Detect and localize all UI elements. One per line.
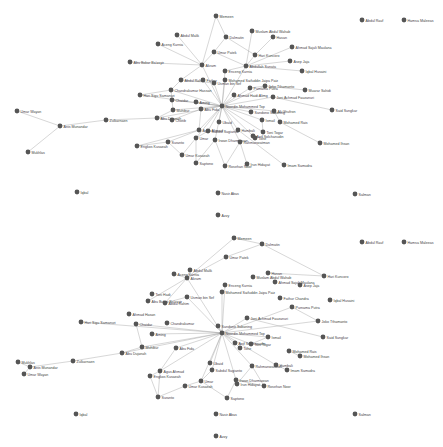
node-dot[interactable] <box>245 162 250 167</box>
node-dot[interactable] <box>316 319 321 324</box>
graph-node-hari-sigu-samanuri[interactable]: Hari Sigu Samanuri <box>138 93 175 99</box>
graph-node-aming[interactable]: Aming <box>150 332 166 338</box>
node-dot[interactable] <box>120 351 125 356</box>
graph-node-imam-samudra[interactable]: Imam Samudra <box>282 163 312 169</box>
node-dot[interactable] <box>220 290 225 295</box>
node-dot[interactable] <box>402 240 407 245</box>
node-dot[interactable] <box>250 29 255 34</box>
node-dot[interactable] <box>234 378 239 383</box>
node-dot[interactable] <box>266 335 271 340</box>
node-dot[interactable] <box>261 130 266 135</box>
graph-node-iqbal-husaini[interactable]: Iqbal Husaini <box>300 69 327 75</box>
graph-node-asep-jaja[interactable]: Asep Jaja <box>298 283 320 289</box>
graph-node-irun-hidayat[interactable]: Irun Hidayat <box>235 382 260 388</box>
graph-node-ahmad-haidi-alimg[interactable]: Ahmad Haidi Alimg <box>232 93 268 99</box>
node-dot[interactable] <box>171 108 176 113</box>
graph-node-mohamed-ihsan[interactable]: Mohamed Ihsan <box>318 141 350 147</box>
node-dot[interactable] <box>104 118 109 123</box>
node-dot[interactable] <box>208 361 213 366</box>
graph-node-dulmatin[interactable]: Dulmatin <box>260 242 280 248</box>
graph-node-memeen[interactable]: Memeen <box>232 236 252 242</box>
node-dot[interactable] <box>262 384 267 389</box>
node-dot[interactable] <box>216 324 221 329</box>
node-dot[interactable] <box>26 150 31 155</box>
graph-node-zulkarnaen[interactable]: Zulkarnaen <box>71 359 95 365</box>
node-dot[interactable] <box>155 116 160 121</box>
node-dot[interactable] <box>223 283 228 288</box>
graph-node-ismail[interactable]: Ismail <box>266 335 281 341</box>
node-dot[interactable] <box>260 242 265 247</box>
node-dot[interactable] <box>360 240 365 245</box>
node-dot[interactable] <box>140 345 145 350</box>
node-dot[interactable] <box>298 354 303 359</box>
node-dot[interactable] <box>201 78 206 83</box>
graph-node-engkos-kusaeah[interactable]: Engkos Kusaeah <box>135 144 168 150</box>
graph-node-suranto[interactable]: Suranto <box>166 140 184 146</box>
node-dot[interactable] <box>170 98 175 103</box>
node-dot[interactable] <box>220 104 225 109</box>
graph-node-mohamed-rais[interactable]: Mohamed Rais <box>278 120 308 126</box>
node-dot[interactable] <box>251 275 256 280</box>
graph-node-said-sungkar[interactable]: Said Sungkar <box>330 108 358 114</box>
node-dot[interactable] <box>156 395 161 400</box>
node-dot[interactable] <box>138 93 143 98</box>
graph-node-engkos-kusaeah[interactable]: Engkos Kusaeah <box>148 374 181 380</box>
graph-node-umar[interactable]: Umar <box>199 379 214 385</box>
node-dot[interactable] <box>263 84 268 89</box>
node-dot[interactable] <box>200 63 205 68</box>
node-dot[interactable] <box>213 138 218 143</box>
node-dot[interactable] <box>150 292 155 297</box>
node-dot[interactable] <box>321 335 326 340</box>
graph-node-akram[interactable]: Akram <box>185 276 201 282</box>
graph-node-ahmad-sajuli-maulana[interactable]: Ahmad Sajuli Maulana <box>290 45 332 51</box>
graph-node-joni-achmad-fauzanuri[interactable]: Joni Achmad Fauzanuri <box>245 316 289 322</box>
graph-node-azzy[interactable]: Azzy <box>214 434 228 440</box>
node-dot[interactable] <box>249 342 254 347</box>
graph-node-saptono[interactable]: Saptono <box>194 161 213 167</box>
node-dot[interactable] <box>214 412 219 417</box>
node-dot[interactable] <box>28 365 33 370</box>
node-dot[interactable] <box>210 368 215 373</box>
node-dot[interactable] <box>253 136 258 141</box>
graph-node-imam-samudra[interactable]: Imam Samudra <box>285 368 315 374</box>
graph-node-memeen[interactable]: Memeen <box>214 14 234 20</box>
graph-node-salman[interactable]: Salman <box>353 412 371 418</box>
graph-node-mohamed-saifuddin-jaipa-paiz[interactable]: Mohamed Saifuddin Jaipa Paiz <box>220 290 276 296</box>
node-dot[interactable] <box>238 140 243 145</box>
node-dot[interactable] <box>250 364 255 369</box>
node-dot[interactable] <box>272 109 277 114</box>
graph-node-umar-wayan[interactable]: Umar Wayan <box>22 372 49 378</box>
node-dot[interactable] <box>266 271 271 276</box>
graph-node-joni-achmad-fauzanuri[interactable]: Joni Achmad Fauzanuri <box>271 95 315 101</box>
graph-node-mukhlas[interactable]: Mukhlas <box>16 360 35 366</box>
node-dot[interactable] <box>185 295 190 300</box>
node-dot[interactable] <box>75 190 80 195</box>
node-dot[interactable] <box>232 93 237 98</box>
node-dot[interactable] <box>223 69 228 74</box>
graph-node-ubaid[interactable]: Ubaid <box>217 120 232 126</box>
node-dot[interactable] <box>285 368 290 373</box>
graph-node-aming[interactable]: Aming <box>194 100 210 106</box>
graph-node-abdul-rauf[interactable]: Abdul Rauf <box>360 240 384 246</box>
graph-node-aceng-kurnia[interactable]: Aceng Kurnia <box>156 42 183 48</box>
node-dot[interactable] <box>170 118 175 123</box>
graph-node-noordin-mohammed-top[interactable]: Noordin Mohammed Top <box>220 331 265 337</box>
node-dot[interactable] <box>224 255 229 260</box>
node-dot[interactable] <box>212 50 217 55</box>
node-dot[interactable] <box>148 374 153 379</box>
graph-node-akram[interactable]: Akram <box>200 63 216 69</box>
graph-node-hari-kuncoro[interactable]: Hari Kuncoro <box>322 274 349 280</box>
node-dot[interactable] <box>245 316 250 321</box>
node-dot[interactable] <box>223 164 228 169</box>
node-dot[interactable] <box>197 128 202 133</box>
node-dot[interactable] <box>282 163 287 168</box>
node-dot[interactable] <box>290 45 295 50</box>
graph-node-muhibur[interactable]: Muhibur <box>140 345 160 351</box>
node-dot[interactable] <box>194 161 199 166</box>
graph-node-hambali[interactable]: Hambali <box>236 128 255 134</box>
node-dot[interactable] <box>166 140 171 145</box>
graph-node-umar-wayan[interactable]: Umar Wayan <box>15 109 42 115</box>
node-dot[interactable] <box>134 322 139 327</box>
node-dot[interactable] <box>244 64 249 69</box>
graph-node-abdul-rauf[interactable]: Abdul Rauf <box>360 18 384 24</box>
